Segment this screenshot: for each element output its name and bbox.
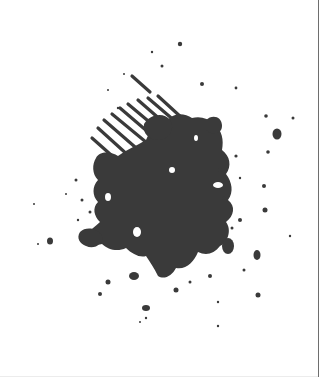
ink-drop <box>77 219 79 221</box>
ink-drop <box>129 272 139 280</box>
ink-drop <box>254 250 261 260</box>
ink-drop <box>217 325 219 327</box>
ink-drop <box>123 73 125 75</box>
ink-drop <box>189 281 192 284</box>
ink-drop <box>178 42 182 46</box>
ink-drop <box>106 280 111 285</box>
hole <box>133 227 141 237</box>
right-border-line <box>318 0 319 377</box>
ink-drop <box>208 274 212 278</box>
ink-drop <box>239 177 241 179</box>
ink-drop <box>235 87 238 90</box>
ink-drop <box>107 89 109 91</box>
ink-drop <box>264 114 268 118</box>
ink-drop <box>263 208 268 213</box>
ink-drop <box>33 203 35 205</box>
stripe <box>132 76 150 92</box>
ink-drop <box>139 321 141 323</box>
ink-drop <box>218 168 222 172</box>
artwork-canvas <box>0 0 329 377</box>
ink-drop <box>200 82 204 86</box>
ink-drop <box>174 288 179 293</box>
ink-drop <box>266 150 270 154</box>
ink-drop <box>234 154 237 157</box>
ink-drop <box>151 51 153 53</box>
ink-drop <box>145 317 147 319</box>
ink-drop <box>75 179 78 182</box>
hole <box>213 182 223 188</box>
ink-drop <box>273 129 282 140</box>
ink-drop <box>217 301 219 303</box>
ink-drop <box>98 292 102 296</box>
ink-drop <box>292 117 295 120</box>
hole <box>194 135 198 141</box>
ink-drop <box>89 211 92 214</box>
ink-blob <box>78 114 233 277</box>
right-lobe <box>206 117 222 134</box>
ink-drop <box>81 199 84 202</box>
ink-drop <box>243 269 246 272</box>
ink-drop <box>142 305 150 311</box>
ink-drop <box>37 243 39 245</box>
ink-drop <box>256 293 261 298</box>
ink-drop <box>65 193 67 195</box>
ink-drop <box>262 184 266 188</box>
ink-drop <box>238 218 242 222</box>
hole <box>105 193 111 201</box>
ink-drop <box>223 197 226 200</box>
ink-drop <box>222 238 234 254</box>
ink-splatter-graphic <box>0 0 329 377</box>
ink-drop <box>161 65 164 68</box>
ink-drop <box>47 238 53 245</box>
hole <box>169 167 175 173</box>
ink-drop <box>289 235 291 237</box>
ink-drop <box>231 227 234 230</box>
ink-drop <box>117 107 119 109</box>
